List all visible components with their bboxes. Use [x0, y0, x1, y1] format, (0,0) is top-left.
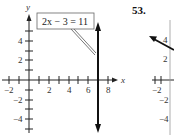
x-axis-label: x	[120, 75, 125, 85]
problem-number: 53.	[132, 4, 146, 16]
equation-label: 2x − 3 = 11	[42, 16, 88, 27]
y-tick-label: −2	[13, 95, 23, 105]
x-tick-label: −2	[152, 85, 162, 95]
graph-canvas: x y −2 2 4 6 8 4 2 −2 −4	[0, 0, 174, 135]
y-tick-label: 4	[18, 36, 23, 46]
y-tick-label: 4	[163, 35, 168, 45]
y-tick-label: 2	[163, 54, 168, 64]
equation-callout: 2x − 3 = 11	[37, 13, 96, 55]
y-tick-label: −2	[159, 95, 169, 105]
x-tick-label: −2	[4, 85, 14, 95]
y-tick-label: 2	[18, 55, 23, 65]
y-tick-label: −4	[13, 114, 23, 124]
line-arrow-icon	[149, 36, 157, 42]
graph-2x-minus-3-equals-11: x y −2 2 4 6 8 4 2 −2 −4	[2, 2, 125, 133]
graph-problem-53: 53. 4 2 −2 −2 −4	[132, 4, 174, 135]
x-tick-label: 8	[106, 85, 111, 95]
y-axis-label: y	[25, 2, 30, 12]
x-tick-label: 6	[86, 85, 91, 95]
y-axis-arrow-icon	[27, 14, 32, 21]
x-tick-label: 2	[47, 85, 52, 95]
x-tick-label: 4	[67, 85, 72, 95]
line-arrow-down-icon	[95, 124, 101, 133]
line-arrow-up-icon	[95, 22, 101, 31]
x-axis-arrow-icon	[112, 78, 118, 83]
y-tick-label: −4	[159, 114, 169, 124]
